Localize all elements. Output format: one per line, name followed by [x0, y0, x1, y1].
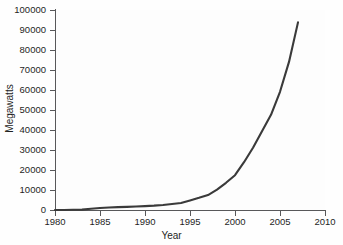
y-axis-tick-label: 60000	[20, 85, 46, 95]
x-axis-tick-label: 2005	[260, 216, 300, 227]
y-axis-spine	[55, 9, 56, 211]
x-axis-tick-label: 2000	[215, 216, 255, 227]
x-axis-tick-label: 1990	[125, 216, 165, 227]
y-axis-tick-label: 20000	[20, 165, 46, 175]
y-axis-tick	[50, 70, 55, 71]
y-axis-tick-label: 70000	[20, 65, 46, 75]
x-axis-tick-label: 1995	[170, 216, 210, 227]
y-axis-tick-label: 90000	[20, 25, 46, 35]
y-axis-tick	[50, 190, 55, 191]
y-axis-title: Megawatts	[4, 54, 15, 164]
y-axis-tick	[50, 30, 55, 31]
y-axis-tick	[50, 10, 55, 11]
y-axis-tick	[50, 50, 55, 51]
y-axis-tick-label: 40000	[20, 125, 46, 135]
x-axis-tick-label: 1980	[35, 216, 75, 227]
y-axis-tick-label: 0	[41, 205, 46, 215]
x-axis-title: Year	[0, 230, 343, 241]
y-axis-title-wrapper: Megawatts	[2, 0, 16, 220]
y-axis-tick-label: 100000	[14, 5, 46, 15]
y-axis-tick-label: 80000	[20, 45, 46, 55]
y-axis-tick-label: 10000	[20, 185, 46, 195]
y-axis-tick	[50, 170, 55, 171]
y-axis-tick	[50, 130, 55, 131]
y-axis-tick	[50, 90, 55, 91]
y-axis-tick-label: 30000	[20, 145, 46, 155]
x-axis-tick-label: 1985	[80, 216, 120, 227]
chart-figure: 0100002000030000400005000060000700008000…	[0, 0, 343, 245]
plot-area	[55, 10, 325, 210]
y-axis-tick	[50, 110, 55, 111]
y-axis-tick	[50, 150, 55, 151]
y-axis-tick-label: 50000	[20, 105, 46, 115]
x-axis-tick-label: 2010	[305, 216, 343, 227]
